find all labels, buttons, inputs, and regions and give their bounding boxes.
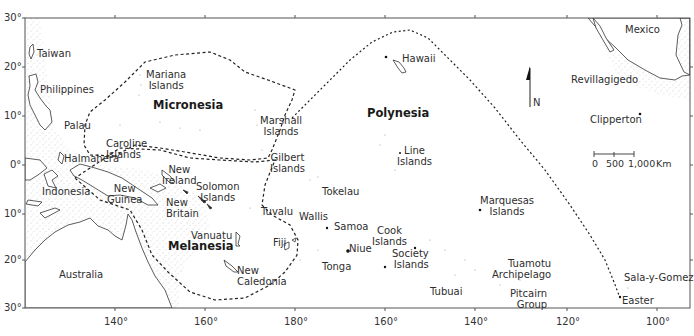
- region-label-micronesia: Micronesia: [153, 100, 223, 111]
- label-easter: Easter: [622, 295, 654, 306]
- label-tubuai: Tubuai: [430, 286, 463, 297]
- label-new-guinea: New Guinea: [107, 183, 142, 205]
- label-vanuatu: Vanuatu: [191, 230, 232, 241]
- lat-label-30n: 30°: [4, 12, 22, 23]
- scale-bar: [594, 151, 634, 157]
- label-tuamotu-archipelago: Tuamotu Archipelago: [492, 258, 551, 280]
- lon-label-100w: 100°: [646, 316, 670, 327]
- island-dots: [326, 56, 642, 298]
- label-mariana-islands: Mariana Islands: [146, 69, 186, 91]
- lat-label-0: 0°: [10, 159, 21, 170]
- label-hawaii: Hawaii: [402, 53, 436, 64]
- lon-label-140e: 140°: [104, 316, 128, 327]
- lon-label-160w: 160°: [374, 316, 398, 327]
- label-australia: Australia: [59, 269, 103, 280]
- lat-label-20n: 20°: [4, 61, 22, 72]
- label-niue: Niue: [349, 243, 372, 254]
- label-marshall-islands: Marshall Islands: [260, 115, 302, 137]
- lat-label-10s: 10°: [4, 208, 22, 219]
- label-line-islands: Line Islands: [397, 145, 432, 167]
- pacific-map: [0, 0, 694, 336]
- label-halmahera: Halmahera: [64, 153, 119, 164]
- scale-unit: Km: [656, 158, 671, 169]
- label-new-ireland: New Ireland: [162, 164, 197, 186]
- label-philippines: Philippines: [40, 84, 94, 95]
- lon-label-160e: 160°: [194, 316, 218, 327]
- lat-label-20s: 20°: [4, 254, 22, 265]
- label-new-britain: New Britain: [166, 197, 199, 219]
- region-label-polynesia: Polynesia: [367, 108, 429, 119]
- new-caledonia-island: [224, 260, 238, 272]
- scale-label-0: 0: [592, 158, 598, 169]
- label-tuvalu: Tuvalu: [261, 206, 293, 217]
- lat-label-30s: 30°: [4, 302, 22, 313]
- polynesia-boundary: [292, 30, 620, 298]
- north-arrow-icon: [526, 66, 530, 107]
- landmasses: [25, 18, 690, 308]
- label-indonesia: Indonesia: [42, 186, 90, 197]
- label-taiwan: Taiwan: [37, 48, 71, 59]
- label-mexico: Mexico: [625, 24, 660, 35]
- lon-label-180: 180°: [284, 316, 308, 327]
- label-solomon-islands: Solomon Islands: [196, 181, 240, 203]
- label-pitcairn-group: Pitcairn Group: [510, 288, 547, 310]
- label-society-islands: Society Islands: [392, 248, 429, 270]
- north-arrow-label: N: [533, 97, 540, 108]
- lon-label-120w: 120°: [556, 316, 580, 327]
- scale-label-1000: 1,000: [628, 158, 655, 169]
- label-revillagigedo: Revillagigedo: [571, 74, 638, 85]
- label-new-caledonia: New Caledonia: [237, 265, 287, 287]
- label-palau: Palau: [64, 120, 91, 131]
- label-tonga: Tonga: [322, 261, 351, 272]
- label-wallis: Wallis: [299, 211, 328, 222]
- scale-label-500: 500: [606, 158, 624, 169]
- label-sala-y-gomez: Sala-y-Gomez: [624, 272, 694, 283]
- lat-label-10n: 10°: [4, 110, 22, 121]
- lon-label-140w: 140°: [464, 316, 488, 327]
- label-tokelau: Tokelau: [322, 186, 359, 197]
- label-fiji: Fiji: [273, 237, 286, 248]
- region-label-melanesia: Melanesia: [168, 241, 233, 252]
- label-gilbert-islands: Gilbert Islands: [270, 152, 305, 174]
- vanuatu-islands: [236, 232, 240, 246]
- label-cook-islands: Cook Islands: [372, 225, 407, 247]
- label-clipperton: Clipperton: [590, 114, 642, 125]
- label-samoa: Samoa: [334, 221, 368, 232]
- label-marquesas-islands: Marquesas Islands: [480, 195, 534, 217]
